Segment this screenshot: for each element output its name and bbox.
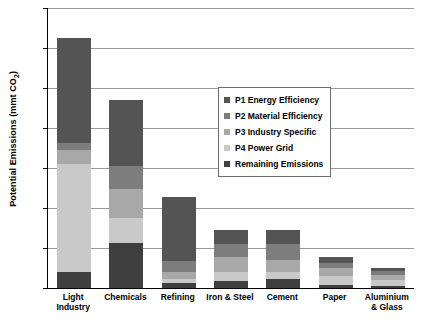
bar-segment [214, 244, 248, 257]
bar-chart: Potential Emissions (mmt CO2) 0100200300… [0, 0, 422, 327]
legend-item[interactable]: P2 Material Efficiency [224, 108, 323, 124]
bar-group [368, 8, 408, 288]
stacked-bar [319, 257, 353, 288]
y-axis-title-main: Potential Emissions (mmt CO [8, 78, 18, 207]
legend-item[interactable]: P3 Industry Specific [224, 124, 323, 140]
y-axis-title: Potential Emissions (mmt CO2) [8, 64, 20, 214]
x-axis-label: Chemicals [99, 292, 151, 312]
x-axis-label: Cement [256, 292, 308, 312]
legend-swatch-icon [224, 113, 230, 119]
bar-segment [214, 257, 248, 272]
legend-label: Remaining Emissions [235, 159, 323, 169]
legend-item[interactable]: Remaining Emissions [224, 156, 323, 172]
bar-segment [57, 143, 91, 150]
bar-segment [57, 164, 91, 272]
bar-group [159, 8, 199, 288]
x-axis-label: Paper [309, 292, 361, 312]
bar-segment [266, 230, 300, 244]
legend-swatch-icon [224, 97, 230, 103]
legend-item[interactable]: P4 Power Grid [224, 140, 323, 156]
bar-segment [214, 272, 248, 281]
x-axis-label: Aluminium & Glass [361, 292, 413, 312]
legend-label: P4 Power Grid [235, 143, 293, 153]
bar-segment [109, 166, 143, 189]
x-axis-label: Iron & Steel [204, 292, 256, 312]
bar-segment [109, 243, 143, 288]
bar-segment [266, 244, 300, 260]
bar-segment [162, 197, 196, 261]
chart-legend: P1 Energy EfficiencyP2 Material Efficien… [218, 87, 331, 177]
bar-segment [266, 272, 300, 279]
bar-group [54, 8, 94, 288]
bar-segment [57, 272, 91, 288]
bar-segment [266, 279, 300, 288]
bar-segment [319, 285, 353, 288]
legend-label: P3 Industry Specific [235, 127, 316, 137]
bar-segment [371, 286, 405, 288]
bar-segment [57, 38, 91, 143]
bar-segment [214, 281, 248, 288]
legend-swatch-icon [224, 145, 230, 151]
bar-segment [162, 261, 196, 272]
legend-item[interactable]: P1 Energy Efficiency [224, 92, 323, 108]
bar-segment [109, 189, 143, 218]
bar-segment [162, 272, 196, 279]
bar-group [106, 8, 146, 288]
bar-segment [319, 276, 353, 285]
y-tick-mark [43, 288, 48, 289]
stacked-bar [162, 197, 196, 288]
legend-swatch-icon [224, 129, 230, 135]
stacked-bar [371, 268, 405, 288]
stacked-bar [57, 38, 91, 288]
x-axis-label: Light Industry [47, 292, 99, 312]
stacked-bar [109, 100, 143, 288]
bar-segment [266, 260, 300, 272]
x-axis-label: Refining [152, 292, 204, 312]
bar-segment [162, 283, 196, 288]
stacked-bar [266, 230, 300, 288]
x-axis-labels: Light IndustryChemicalsRefiningIron & St… [47, 292, 413, 312]
bar-segment [109, 218, 143, 243]
y-axis-title-end: ) [8, 71, 18, 74]
bar-segment [109, 100, 143, 166]
stacked-bar [214, 230, 248, 288]
bar-segment [214, 230, 248, 244]
bar-segment [57, 150, 91, 164]
legend-label: P1 Energy Efficiency [235, 95, 319, 105]
y-axis-title-subscript: 2 [13, 74, 20, 78]
legend-label: P2 Material Efficiency [235, 111, 322, 121]
bar-segment [319, 268, 353, 276]
legend-swatch-icon [224, 161, 230, 167]
